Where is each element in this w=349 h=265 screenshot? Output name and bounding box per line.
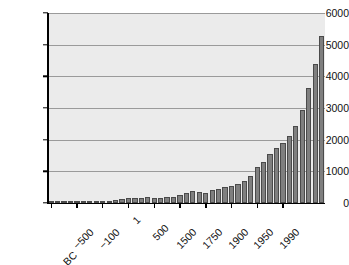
bars-group xyxy=(48,13,325,203)
plot-area xyxy=(48,13,325,203)
y-tick-mark xyxy=(43,202,48,203)
bar xyxy=(222,187,227,203)
y-tick-label: 4000 xyxy=(305,71,349,82)
bar xyxy=(287,136,292,203)
bar xyxy=(248,176,253,203)
y-tick-mark xyxy=(43,76,48,77)
y-tick-mark xyxy=(43,107,48,108)
x-tick-mark xyxy=(102,204,103,208)
bar xyxy=(280,143,285,203)
y-tick-label: 3000 xyxy=(305,103,349,114)
x-tick-mark xyxy=(231,204,232,208)
y-tick-label: 6000 xyxy=(305,8,349,19)
y-tick-label: 0 xyxy=(305,198,349,209)
bar xyxy=(210,190,215,203)
x-tick-mark xyxy=(128,204,129,208)
x-tick-mark xyxy=(179,204,180,208)
y-tick-label: 5000 xyxy=(305,39,349,50)
bar xyxy=(313,64,318,203)
y-tick-mark xyxy=(43,12,48,13)
bar xyxy=(197,192,202,203)
bar xyxy=(235,184,240,203)
x-tick-mark xyxy=(154,204,155,208)
bar xyxy=(319,36,324,203)
y-tick-label: 2000 xyxy=(305,134,349,145)
bar xyxy=(267,154,272,203)
bar xyxy=(255,167,260,203)
bar xyxy=(184,193,189,203)
x-tick-mark xyxy=(205,204,206,208)
x-tick-label: 500 xyxy=(163,210,183,230)
bar xyxy=(216,189,221,203)
x-tick-mark xyxy=(51,204,52,208)
y-tick-mark xyxy=(43,171,48,172)
x-tick-label: 1 xyxy=(134,210,146,222)
x-tick-mark xyxy=(257,204,258,208)
bar xyxy=(242,181,247,203)
bar xyxy=(190,191,195,203)
x-tick-mark xyxy=(282,204,283,208)
x-tick-mark xyxy=(76,204,77,208)
bar xyxy=(300,110,305,203)
y-tick-mark xyxy=(43,44,48,45)
x-tick-label: 1990 xyxy=(294,210,318,234)
y-tick-mark xyxy=(43,139,48,140)
y-tick-label: 1000 xyxy=(305,166,349,177)
bar xyxy=(293,126,298,203)
bar xyxy=(261,162,266,203)
bar xyxy=(229,186,234,203)
population-bar-chart-figure: 0100020003000400050006000 1 million BC−5… xyxy=(0,0,349,265)
bar xyxy=(274,148,279,203)
